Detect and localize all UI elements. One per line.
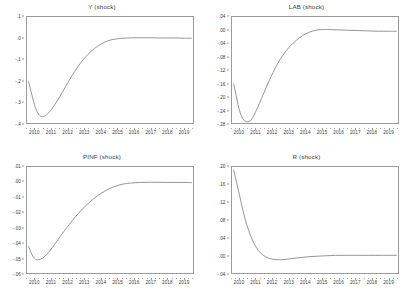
x-tick-label: 2016 <box>333 130 344 135</box>
x-tick-label: 2015 <box>317 280 328 285</box>
x-minor-tick-mark <box>314 278 315 279</box>
x-tick-mark <box>272 128 273 130</box>
y-tick-label: .1 <box>17 14 21 19</box>
x-minor-tick-mark <box>326 128 327 129</box>
x-tick-label: 2019 <box>179 280 190 285</box>
x-tick-label: 2019 <box>383 280 394 285</box>
x-minor-tick-mark <box>264 278 265 279</box>
x-tick-label: 2014 <box>96 130 107 135</box>
y-tick-mark <box>227 256 229 257</box>
y-tick-label: -.16 <box>217 81 225 86</box>
x-minor-tick-mark <box>247 278 248 279</box>
x-minor-tick-mark <box>326 278 327 279</box>
x-axis-ticks-pinf: 2010201120122013201420152016201720182019 <box>26 278 194 290</box>
x-minor-tick-mark <box>26 128 27 129</box>
x-minor-tick-mark <box>88 128 89 129</box>
y-tick-mark <box>22 59 24 60</box>
x-tick-mark <box>84 128 85 130</box>
y-tick-label: -.04 <box>13 241 21 246</box>
y-tick-mark <box>22 274 24 275</box>
x-minor-tick-mark <box>43 278 44 279</box>
y-tick-label: -.03 <box>13 225 21 230</box>
x-minor-tick-mark <box>380 278 381 279</box>
x-tick-label: 2013 <box>283 280 294 285</box>
y-tick-mark <box>227 202 229 203</box>
x-tick-label: 2018 <box>162 280 173 285</box>
x-tick-mark <box>184 278 185 280</box>
y-tick-label: -.02 <box>13 210 21 215</box>
y-tick-mark <box>227 238 229 239</box>
x-tick-label: 2015 <box>317 130 328 135</box>
plot-curve-r <box>232 167 398 273</box>
plot-area-lab <box>231 16 399 124</box>
y-tick-mark <box>227 184 229 185</box>
x-tick-mark <box>355 128 356 130</box>
x-minor-tick-mark <box>376 278 377 279</box>
x-minor-tick-mark <box>109 128 110 129</box>
x-minor-tick-mark <box>293 128 294 129</box>
x-minor-tick-mark <box>380 128 381 129</box>
x-tick-mark <box>134 278 135 280</box>
x-minor-tick-mark <box>297 278 298 279</box>
x-tick-mark <box>167 128 168 130</box>
x-minor-tick-mark <box>59 278 60 279</box>
chart-panel-r: R (shock) .20.16.12.08.04.00-.04 2010201… <box>205 150 409 300</box>
y-tick-label: .01 <box>14 164 21 169</box>
x-minor-tick-mark <box>397 278 398 279</box>
x-tick-label: 2012 <box>267 280 278 285</box>
x-minor-tick-mark <box>347 128 348 129</box>
x-tick-mark <box>68 278 69 280</box>
chart-panel-y: Y (shock) .1.0-.1-.2-.3-.4 2010201120122… <box>0 0 204 150</box>
x-tick-mark <box>305 278 306 280</box>
y-axis-ticks-lab: .04.00-.04-.08-.12-.16-.20-.24-.28 <box>205 16 229 124</box>
x-tick-label: 2013 <box>283 130 294 135</box>
y-tick-mark <box>227 83 229 84</box>
x-tick-mark <box>117 278 118 280</box>
x-tick-mark <box>322 128 323 130</box>
x-tick-mark <box>239 278 240 280</box>
x-minor-tick-mark <box>314 128 315 129</box>
x-tick-label: 2016 <box>129 280 140 285</box>
x-minor-tick-mark <box>188 128 189 129</box>
y-tick-label: .12 <box>219 200 226 205</box>
x-minor-tick-mark <box>142 128 143 129</box>
x-minor-tick-mark <box>280 128 281 129</box>
y-tick-label: -.12 <box>217 68 225 73</box>
x-tick-label: 2019 <box>383 130 394 135</box>
x-minor-tick-mark <box>172 128 173 129</box>
x-minor-tick-mark <box>297 128 298 129</box>
x-tick-mark <box>289 128 290 130</box>
x-tick-mark <box>339 128 340 130</box>
y-tick-label: -.06 <box>13 272 21 277</box>
plot-area-r <box>231 166 399 274</box>
y-tick-mark <box>22 258 24 259</box>
series-line <box>29 182 192 260</box>
series-line <box>233 30 396 122</box>
x-tick-label: 2014 <box>300 280 311 285</box>
y-tick-label: -.08 <box>217 54 225 59</box>
x-minor-tick-mark <box>364 128 365 129</box>
series-line <box>233 170 396 260</box>
x-minor-tick-mark <box>397 128 398 129</box>
x-tick-mark <box>289 278 290 280</box>
x-minor-tick-mark <box>264 128 265 129</box>
x-minor-tick-mark <box>376 128 377 129</box>
x-tick-label: 2016 <box>333 280 344 285</box>
x-minor-tick-mark <box>159 278 160 279</box>
x-tick-label: 2010 <box>29 280 40 285</box>
chart-panel-pinf: PINF (shock) .01.00-.01-.02-.03-.04-.05-… <box>0 150 204 300</box>
x-minor-tick-mark <box>330 128 331 129</box>
x-minor-tick-mark <box>276 128 277 129</box>
x-minor-tick-mark <box>330 278 331 279</box>
x-minor-tick-mark <box>293 278 294 279</box>
y-tick-mark <box>227 97 229 98</box>
x-minor-tick-mark <box>30 128 31 129</box>
x-tick-mark <box>134 128 135 130</box>
x-axis-ticks-y: 2010201120122013201420152016201720182019 <box>26 128 194 140</box>
x-tick-label: 2017 <box>350 280 361 285</box>
x-tick-label: 2017 <box>145 130 156 135</box>
x-tick-mark <box>84 278 85 280</box>
x-tick-mark <box>239 128 240 130</box>
x-axis-ticks-r: 2010201120122013201420152016201720182019 <box>231 278 399 290</box>
x-tick-mark <box>322 278 323 280</box>
